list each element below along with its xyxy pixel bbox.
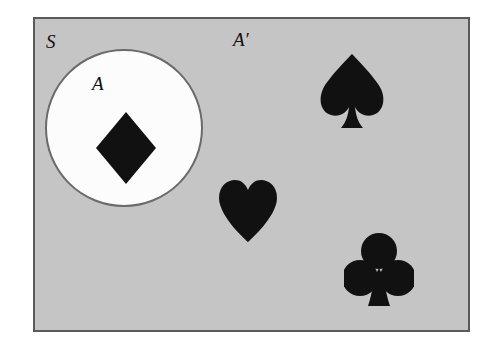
club-icon bbox=[344, 232, 414, 312]
spade-icon bbox=[318, 52, 386, 134]
heart-icon bbox=[218, 179, 278, 243]
venn-diagram-figure: S A A′ bbox=[0, 0, 492, 357]
set-a-complement-label: A′ bbox=[233, 30, 249, 49]
diamond-icon bbox=[95, 111, 157, 185]
set-a-label: A bbox=[92, 74, 104, 93]
universal-set-label: S bbox=[46, 32, 56, 51]
